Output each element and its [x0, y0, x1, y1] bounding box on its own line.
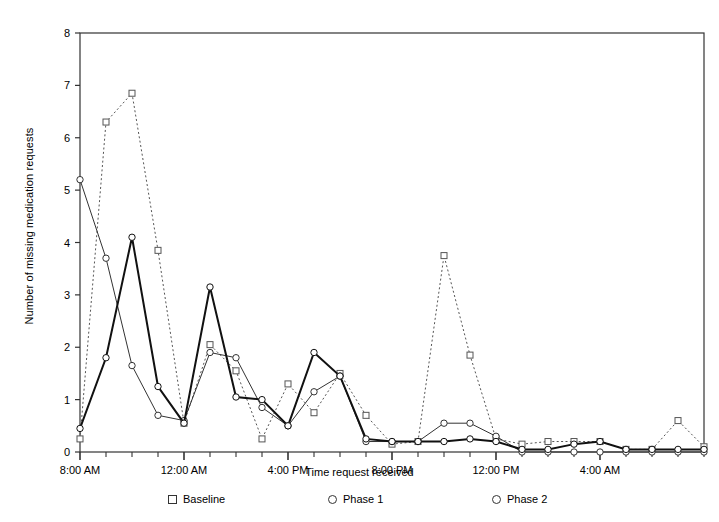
data-point-marker	[233, 394, 239, 400]
data-point-marker	[571, 441, 577, 447]
data-point-marker	[493, 438, 499, 444]
legend-item-baseline[interactable]: Baseline	[168, 493, 225, 505]
data-point-marker	[129, 234, 135, 240]
chart-root: 012345678 8:00 AM12:00 AM4:00 PM8:00 PM1…	[0, 0, 719, 522]
data-point-marker	[597, 438, 603, 444]
legend-item-phase-2[interactable]: Phase 2	[492, 493, 547, 505]
svg-text:7: 7	[64, 79, 70, 91]
data-point-marker	[207, 349, 213, 355]
data-point-marker	[285, 381, 291, 387]
data-point-marker	[337, 373, 343, 379]
data-point-marker	[415, 438, 421, 444]
data-point-marker	[467, 420, 473, 426]
data-point-marker	[181, 420, 187, 426]
svg-text:0: 0	[64, 446, 70, 458]
chart-legend: Baseline Phase 1 Phase 2	[0, 488, 719, 510]
data-point-marker	[623, 446, 629, 452]
data-series-layer	[77, 90, 707, 455]
data-point-marker	[701, 446, 707, 452]
data-point-marker	[103, 255, 109, 261]
data-point-marker	[233, 355, 239, 361]
circle-marker-icon	[328, 495, 337, 504]
data-point-marker	[545, 439, 551, 445]
data-point-marker	[675, 418, 681, 424]
svg-text:1: 1	[64, 394, 70, 406]
data-point-marker	[441, 420, 447, 426]
data-point-marker	[519, 446, 525, 452]
x-axis-title-text: Time request received	[305, 466, 413, 478]
square-marker-icon	[168, 495, 177, 504]
data-point-marker	[259, 404, 265, 410]
data-point-marker	[597, 449, 603, 455]
data-point-marker	[155, 383, 161, 389]
data-point-marker	[129, 362, 135, 368]
data-point-marker	[77, 176, 83, 182]
y-axis-ticks: 012345678	[64, 27, 80, 458]
data-point-marker	[77, 436, 83, 442]
circle-marker-icon	[492, 495, 501, 504]
series-phase-2	[77, 234, 707, 453]
svg-text:5: 5	[64, 184, 70, 196]
data-point-marker	[441, 253, 447, 259]
data-point-marker	[129, 90, 135, 96]
data-point-marker	[311, 410, 317, 416]
series-phase-1	[77, 176, 707, 455]
data-point-marker	[155, 247, 161, 253]
data-point-marker	[363, 412, 369, 418]
data-point-marker	[285, 423, 291, 429]
data-point-marker	[103, 119, 109, 125]
data-point-marker	[467, 352, 473, 358]
data-point-marker	[545, 446, 551, 452]
data-point-marker	[311, 389, 317, 395]
data-point-marker	[77, 425, 83, 431]
svg-text:2: 2	[64, 341, 70, 353]
legend-label: Phase 2	[507, 493, 547, 505]
data-point-marker	[675, 446, 681, 452]
data-point-marker	[259, 436, 265, 442]
data-point-marker	[233, 368, 239, 374]
data-point-marker	[441, 438, 447, 444]
legend-label: Baseline	[183, 493, 225, 505]
series-baseline	[77, 90, 707, 452]
svg-text:3: 3	[64, 289, 70, 301]
data-point-marker	[155, 412, 161, 418]
svg-text:8: 8	[64, 27, 70, 39]
data-point-marker	[389, 438, 395, 444]
svg-text:4: 4	[64, 237, 70, 249]
data-point-marker	[363, 436, 369, 442]
line-chart-plot: 012345678 8:00 AM12:00 AM4:00 PM8:00 PM1…	[0, 0, 719, 522]
data-point-marker	[649, 446, 655, 452]
data-point-marker	[103, 355, 109, 361]
data-point-marker	[311, 349, 317, 355]
chart-axes	[80, 33, 704, 452]
data-point-marker	[259, 396, 265, 402]
data-point-marker	[571, 449, 577, 455]
x-axis-title: Time request received	[0, 466, 719, 478]
legend-label: Phase 1	[343, 493, 383, 505]
svg-text:6: 6	[64, 132, 70, 144]
data-point-marker	[467, 436, 473, 442]
data-point-marker	[207, 342, 213, 348]
legend-item-phase-1[interactable]: Phase 1	[328, 493, 383, 505]
data-point-marker	[207, 284, 213, 290]
